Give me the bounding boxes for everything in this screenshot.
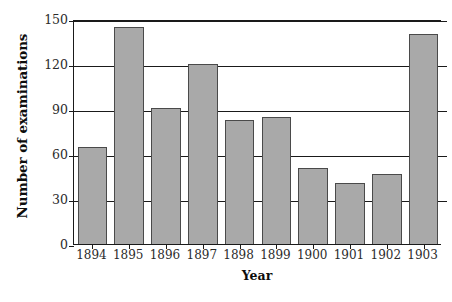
bar <box>409 34 438 244</box>
x-axis-tick-label: 1898 <box>220 249 257 261</box>
x-axis-tick-label: 1902 <box>367 249 404 261</box>
x-axis-tick-label-group: 1894189518961897189818991900190119021903 <box>73 249 441 267</box>
bar <box>372 174 401 245</box>
bar <box>262 117 291 245</box>
bar <box>114 27 143 245</box>
x-axis-tick-label: 1901 <box>331 249 368 261</box>
x-axis-title: Year <box>73 268 441 283</box>
y-axis-tick-label: 90 <box>28 104 68 117</box>
bar-chart-figure: Number of examinations 0306090120150 189… <box>0 0 452 302</box>
x-axis-tick-label: 1903 <box>404 249 441 261</box>
y-axis-tick-label: 30 <box>28 194 68 207</box>
bar <box>78 147 107 245</box>
y-axis-tick-mark-right <box>441 66 447 67</box>
x-axis-tick-label: 1900 <box>294 249 331 261</box>
bar <box>151 108 180 245</box>
x-axis-tick-label: 1899 <box>257 249 294 261</box>
y-axis-tick-mark-right <box>441 21 447 22</box>
bar <box>335 183 364 245</box>
bar <box>225 120 254 245</box>
y-axis-tick-label: 60 <box>28 149 68 162</box>
y-axis-tick-label: 120 <box>28 59 68 72</box>
y-axis-tick-mark-right <box>441 156 447 157</box>
bars-layer <box>74 21 441 244</box>
y-axis-tick-label: 150 <box>28 14 68 27</box>
y-axis-tick-mark-right <box>441 201 447 202</box>
x-axis-tick-label: 1895 <box>110 249 147 261</box>
x-axis-tick-label: 1896 <box>147 249 184 261</box>
bar <box>298 168 327 245</box>
y-axis-tick-label: 0 <box>28 239 68 252</box>
y-axis-tick-mark <box>69 246 74 247</box>
x-axis-tick-label: 1894 <box>73 249 110 261</box>
y-axis-tick-label-group: 0306090120150 <box>24 0 68 302</box>
bar <box>188 64 217 244</box>
plot-area <box>73 20 441 245</box>
x-axis-tick-label: 1897 <box>183 249 220 261</box>
y-axis-tick-mark-right <box>441 111 447 112</box>
